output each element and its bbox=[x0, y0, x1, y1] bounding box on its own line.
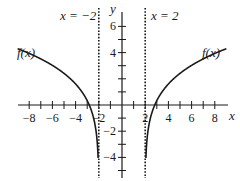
y-axis-label: y bbox=[108, 1, 116, 16]
svg-text:4: 4 bbox=[165, 111, 171, 125]
svg-text:6: 6 bbox=[189, 111, 195, 125]
function-graph: −8−6−4−22468 −4−246 x = −2 x = 2 f(x) f(… bbox=[0, 0, 240, 181]
asymptote-left-label: x = −2 bbox=[59, 8, 97, 23]
svg-text:−4: −4 bbox=[103, 150, 116, 164]
curve-left-label: f(x) bbox=[17, 45, 35, 60]
svg-text:−4: −4 bbox=[69, 111, 82, 125]
svg-text:8: 8 bbox=[212, 111, 218, 125]
svg-text:−2: −2 bbox=[103, 124, 116, 138]
asymptote-right-label: x = 2 bbox=[150, 8, 179, 23]
svg-text:4: 4 bbox=[110, 46, 116, 60]
x-axis-label: x bbox=[228, 108, 235, 123]
svg-text:6: 6 bbox=[110, 19, 116, 33]
svg-text:−8: −8 bbox=[23, 111, 36, 125]
curve-right-label: f(x) bbox=[202, 45, 220, 60]
svg-text:−6: −6 bbox=[46, 111, 59, 125]
graph-svg: −8−6−4−22468 −4−246 x = −2 x = 2 f(x) f(… bbox=[0, 0, 240, 181]
